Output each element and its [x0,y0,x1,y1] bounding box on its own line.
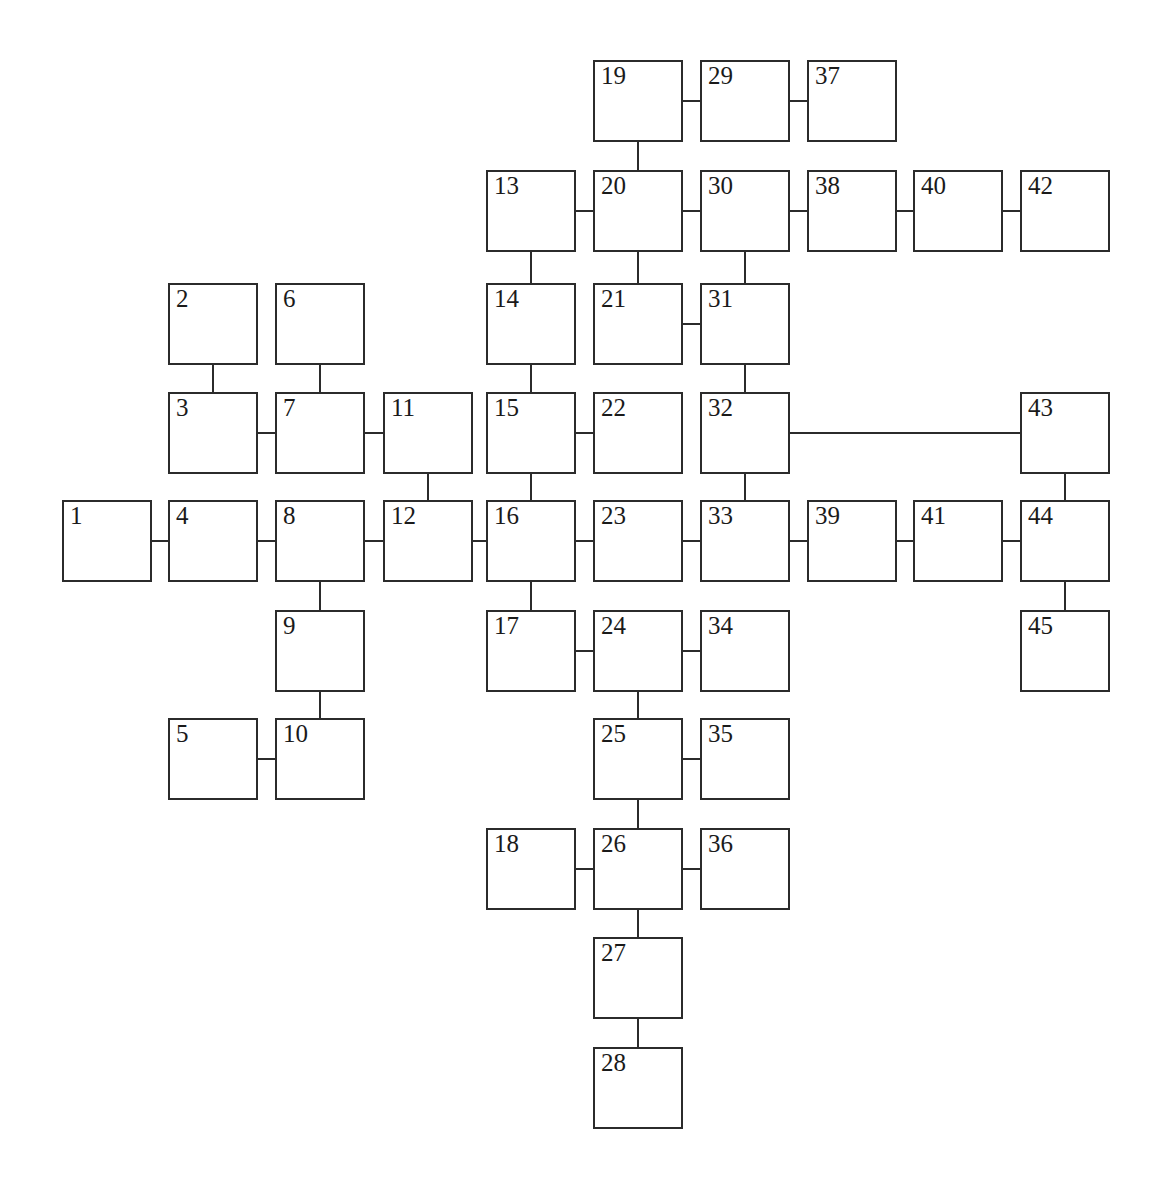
node-label-34: 34 [708,613,733,639]
node-label-30: 30 [708,173,733,199]
node-box-18[interactable]: 18 [486,828,576,910]
node-box-30[interactable]: 30 [700,170,790,252]
node-label-10: 10 [283,721,308,747]
node-label-4: 4 [176,503,189,529]
node-box-42[interactable]: 42 [1020,170,1110,252]
node-box-13[interactable]: 13 [486,170,576,252]
node-box-17[interactable]: 17 [486,610,576,692]
diagram-canvas: 1234567891011121314151617181920212223242… [0,0,1162,1183]
node-box-3[interactable]: 3 [168,392,258,474]
node-label-32: 32 [708,395,733,421]
node-label-19: 19 [601,63,626,89]
node-box-11[interactable]: 11 [383,392,473,474]
node-box-21[interactable]: 21 [593,283,683,365]
node-box-41[interactable]: 41 [913,500,1003,582]
node-box-24[interactable]: 24 [593,610,683,692]
node-label-27: 27 [601,940,626,966]
node-box-45[interactable]: 45 [1020,610,1110,692]
node-box-9[interactable]: 9 [275,610,365,692]
node-box-1[interactable]: 1 [62,500,152,582]
node-label-7: 7 [283,395,296,421]
node-label-43: 43 [1028,395,1053,421]
node-box-5[interactable]: 5 [168,718,258,800]
node-box-8[interactable]: 8 [275,500,365,582]
node-box-25[interactable]: 25 [593,718,683,800]
node-label-23: 23 [601,503,626,529]
node-label-37: 37 [815,63,840,89]
node-label-5: 5 [176,721,189,747]
node-label-26: 26 [601,831,626,857]
node-label-17: 17 [494,613,519,639]
node-label-35: 35 [708,721,733,747]
node-box-4[interactable]: 4 [168,500,258,582]
node-label-42: 42 [1028,173,1053,199]
node-box-23[interactable]: 23 [593,500,683,582]
node-label-3: 3 [176,395,189,421]
node-box-34[interactable]: 34 [700,610,790,692]
node-label-29: 29 [708,63,733,89]
node-label-24: 24 [601,613,626,639]
node-label-6: 6 [283,286,296,312]
node-label-40: 40 [921,173,946,199]
node-box-15[interactable]: 15 [486,392,576,474]
node-box-33[interactable]: 33 [700,500,790,582]
node-box-40[interactable]: 40 [913,170,1003,252]
node-label-38: 38 [815,173,840,199]
node-box-19[interactable]: 19 [593,60,683,142]
node-label-16: 16 [494,503,519,529]
node-box-6[interactable]: 6 [275,283,365,365]
node-label-22: 22 [601,395,626,421]
node-label-31: 31 [708,286,733,312]
node-label-18: 18 [494,831,519,857]
node-label-28: 28 [601,1050,626,1076]
node-box-27[interactable]: 27 [593,937,683,1019]
node-box-32[interactable]: 32 [700,392,790,474]
node-label-41: 41 [921,503,946,529]
node-box-2[interactable]: 2 [168,283,258,365]
node-box-22[interactable]: 22 [593,392,683,474]
node-label-21: 21 [601,286,626,312]
node-box-39[interactable]: 39 [807,500,897,582]
node-box-26[interactable]: 26 [593,828,683,910]
node-box-7[interactable]: 7 [275,392,365,474]
node-label-33: 33 [708,503,733,529]
node-box-14[interactable]: 14 [486,283,576,365]
node-box-12[interactable]: 12 [383,500,473,582]
node-label-14: 14 [494,286,519,312]
node-box-44[interactable]: 44 [1020,500,1110,582]
node-label-39: 39 [815,503,840,529]
node-box-28[interactable]: 28 [593,1047,683,1129]
node-box-38[interactable]: 38 [807,170,897,252]
node-label-8: 8 [283,503,296,529]
node-label-44: 44 [1028,503,1053,529]
node-label-13: 13 [494,173,519,199]
node-label-45: 45 [1028,613,1053,639]
node-box-10[interactable]: 10 [275,718,365,800]
node-label-15: 15 [494,395,519,421]
node-box-36[interactable]: 36 [700,828,790,910]
node-label-25: 25 [601,721,626,747]
node-label-20: 20 [601,173,626,199]
node-box-31[interactable]: 31 [700,283,790,365]
node-box-20[interactable]: 20 [593,170,683,252]
node-label-12: 12 [391,503,416,529]
node-box-37[interactable]: 37 [807,60,897,142]
node-box-16[interactable]: 16 [486,500,576,582]
node-label-2: 2 [176,286,189,312]
node-box-29[interactable]: 29 [700,60,790,142]
node-label-11: 11 [391,395,415,421]
node-box-35[interactable]: 35 [700,718,790,800]
node-box-43[interactable]: 43 [1020,392,1110,474]
node-label-1: 1 [70,503,83,529]
node-label-9: 9 [283,613,296,639]
node-label-36: 36 [708,831,733,857]
